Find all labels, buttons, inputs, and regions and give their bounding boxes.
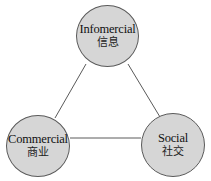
node-label-en: Infomercial	[79, 22, 135, 36]
node-label-en: Commercial	[8, 132, 68, 146]
edge-infomercial-commercial	[55, 64, 86, 118]
node-commercial: Commercial 商业	[6, 115, 70, 177]
diagram-canvas: Infomercial 信息 Commercial 商业 Social 社交	[0, 0, 211, 181]
node-social: Social 社交	[141, 113, 205, 177]
node-label-zh: 社交	[162, 145, 184, 159]
edge-infomercial-social	[128, 64, 160, 117]
node-label-zh: 商业	[27, 146, 49, 160]
node-label-zh: 信息	[97, 36, 119, 50]
node-infomercial: Infomercial 信息	[76, 5, 139, 67]
node-label-en: Social	[158, 131, 188, 145]
